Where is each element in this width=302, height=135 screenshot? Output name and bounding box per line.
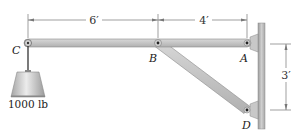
dimension-horizontal xyxy=(28,14,247,38)
point-label-c: C xyxy=(12,44,21,57)
dimension-label-ba: 4′ xyxy=(199,14,209,27)
member-ca xyxy=(24,39,251,47)
point-label-d: D xyxy=(241,119,251,132)
frame-diagram: 6′ 4′ xyxy=(0,0,302,135)
dimension-label-ad: 3′ xyxy=(281,69,291,82)
diagram-canvas: 6′ 4′ xyxy=(0,0,302,135)
dimension-label-cb: 6′ xyxy=(89,14,99,27)
weight xyxy=(11,70,45,97)
pin-a xyxy=(244,40,250,46)
point-label-b: B xyxy=(148,52,157,65)
pin-c xyxy=(25,40,32,47)
point-label-a: A xyxy=(239,52,248,65)
member-bd xyxy=(155,40,250,114)
load-label: 1000 lb xyxy=(8,98,48,110)
wall xyxy=(258,23,265,129)
bracket-d xyxy=(250,101,258,119)
pin-d xyxy=(244,107,250,113)
pin-b xyxy=(155,40,162,47)
